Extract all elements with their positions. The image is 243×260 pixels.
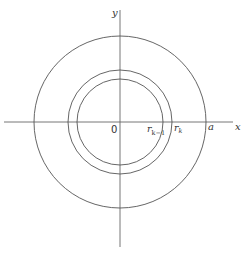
- origin-label: 0: [111, 124, 117, 135]
- outer-radius-label: a: [208, 121, 214, 132]
- x-axis-label: x: [235, 121, 241, 132]
- diagram-canvas: y x 0 rk−1 rk a: [0, 0, 243, 260]
- y-axis-label: y: [111, 7, 118, 18]
- middle-radius-label: rk: [174, 122, 183, 135]
- inner-radius-label: rk−1: [147, 123, 165, 137]
